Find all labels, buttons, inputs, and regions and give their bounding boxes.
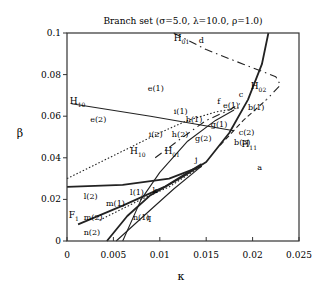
y-tick-label: 0.04 — [41, 153, 61, 163]
region-label: H10 — [70, 96, 86, 108]
region-label: k — [152, 186, 157, 195]
x-axis-label: κ — [178, 270, 185, 283]
x-tick-label: 0.005 — [101, 250, 127, 260]
y-tick-label: 0.06 — [41, 111, 61, 121]
region-label: d — [199, 36, 204, 45]
region-label: i(2) — [149, 130, 163, 139]
region-label: H10 — [130, 146, 146, 158]
x-tick-label: 0.02 — [243, 250, 263, 260]
chart-title: Branch set (σ=5.0, λ=10.0, ρ=1.0) — [103, 16, 262, 26]
region-label: a — [257, 163, 262, 172]
region-label: g(1) — [211, 120, 227, 129]
region-label: j — [194, 155, 197, 164]
region-label: c(2) — [239, 128, 255, 137]
region-label: h(2) — [172, 130, 188, 139]
region-label: f — [217, 97, 221, 106]
region-label: h(1) — [186, 115, 202, 124]
y-tick-label: 0.1 — [47, 28, 61, 38]
y-tick-label: 0 — [55, 236, 61, 246]
y-axis: 00.020.040.060.080.1 — [41, 28, 67, 246]
y-tick-label: 0.02 — [41, 194, 61, 204]
x-tick-label: 0.01 — [150, 250, 170, 260]
region-label: m(2) — [84, 213, 103, 222]
region-label: c — [239, 90, 244, 99]
region-label: g(2) — [195, 134, 211, 143]
x-tick-label: 0.025 — [286, 250, 312, 260]
region-label: H01 — [164, 146, 180, 158]
region-labels: H01de(1)H10e(2)H02cfe(1)b(1)i(1)h(1)g(1)… — [69, 33, 267, 236]
region-label: m(1) — [106, 199, 125, 208]
region-label: H01 — [174, 33, 190, 45]
region-label: l(2) — [84, 192, 98, 201]
x-tick-label: 0.015 — [193, 250, 219, 260]
region-label: n(2) — [84, 228, 100, 237]
region-label: e(1) — [148, 84, 164, 93]
region-label: b(1) — [248, 103, 264, 112]
region-label: e(1) — [223, 101, 239, 110]
region-label: H02 — [251, 81, 267, 93]
region-label: l(1) — [130, 188, 144, 197]
branch-set-chart: Branch set (σ=5.0, λ=10.0, ρ=1.0) 00.005… — [0, 0, 326, 293]
x-tick-label: 0 — [64, 250, 70, 260]
region-label: q — [146, 213, 151, 222]
region-label: F1 — [69, 210, 79, 222]
region-label: e(2) — [90, 115, 106, 124]
y-axis-label: β — [17, 127, 23, 140]
region-label: b(3) — [234, 138, 250, 147]
y-tick-label: 0.08 — [41, 70, 61, 80]
